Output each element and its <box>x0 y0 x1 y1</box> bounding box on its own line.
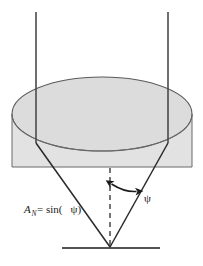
formula-equals-sin: = sin( <box>37 203 63 216</box>
angle-double-arrow <box>112 184 137 192</box>
formula-close-paren: ) <box>78 203 82 216</box>
angle-label-psi: ψ <box>144 192 151 204</box>
formula-group: A N = sin( ψ ) <box>23 203 82 218</box>
figure-container: ψ A N = sin( ψ ) <box>0 0 203 266</box>
formula-variable-a: A <box>23 203 31 215</box>
numerical-aperture-diagram: ψ A N = sin( ψ ) <box>0 0 203 266</box>
formula-psi: ψ <box>71 203 78 215</box>
